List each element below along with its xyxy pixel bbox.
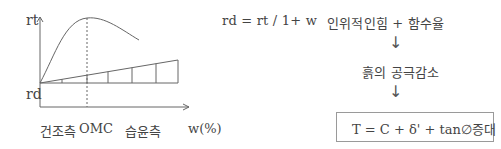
- sloped-line: [40, 60, 178, 83]
- rd-label: rd: [26, 86, 42, 102]
- flow-step-1: 인위적인힘 + 함수율: [327, 13, 444, 32]
- x-label-wet-side: 습윤측: [125, 121, 161, 140]
- x-label-dry-side: 건조측: [40, 121, 76, 140]
- rt-label: rt: [26, 12, 38, 28]
- flow-step-2: 흙의 공극감소: [362, 62, 440, 81]
- arrow-down-icon: ↓: [389, 33, 402, 52]
- arrow-down-icon: ↓: [389, 82, 402, 101]
- rt-curve: [40, 18, 139, 83]
- x-label-omc: OMC: [79, 121, 113, 136]
- dry-density-formula: rd = rt / 1+ w: [222, 13, 317, 28]
- flow-step-3: T = C + δ' + tan∅증대: [352, 119, 496, 138]
- x-label-w-percent: w(%): [188, 121, 222, 136]
